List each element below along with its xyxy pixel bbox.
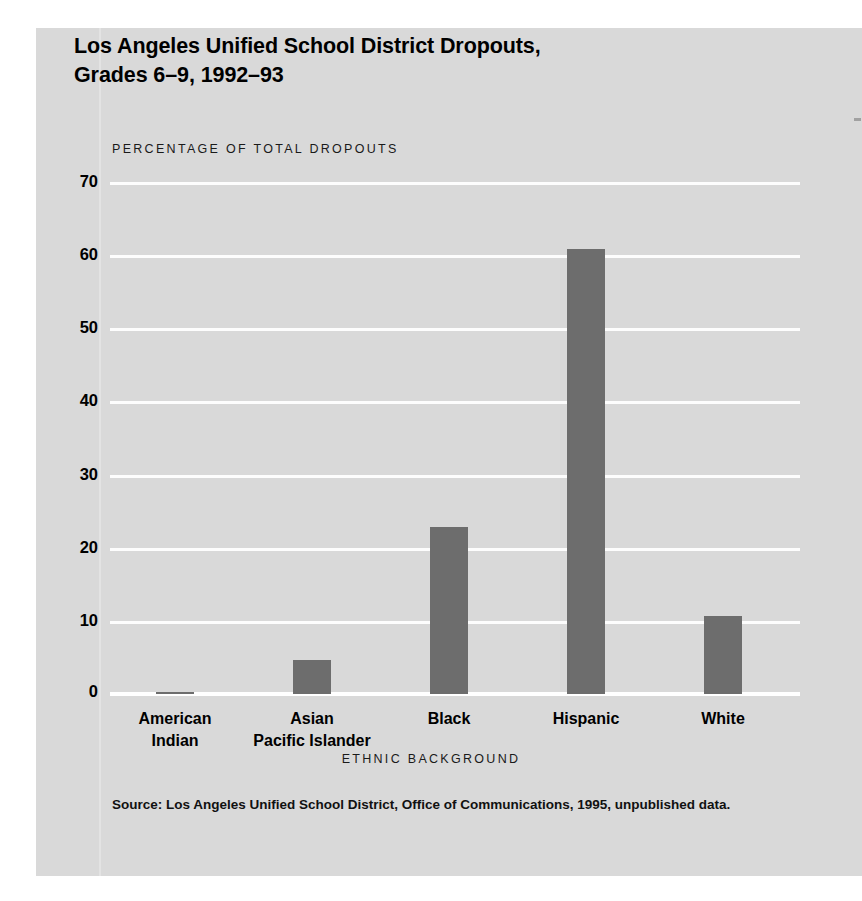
figure-container: Los Angeles Unified School District Drop…: [0, 0, 862, 901]
x-tick-label-american-indian: American Indian: [139, 694, 212, 752]
source-note: Source: Los Angeles Unified School Distr…: [112, 797, 730, 812]
x-tick-label-line-1: Asian: [290, 710, 334, 727]
x-tick-label-line-1: Black: [428, 710, 471, 727]
x-tick-label-line-1: Hispanic: [553, 710, 620, 727]
gridline-60: 60: [110, 255, 800, 258]
page-title: Los Angeles Unified School District Drop…: [74, 32, 774, 90]
x-tick-label-line-2: Pacific Islander: [253, 730, 370, 752]
gridline-50: 50: [110, 328, 800, 331]
gridline-30: 30: [110, 475, 800, 478]
y-axis-title: PERCENTAGE OF TOTAL DROPOUTS: [112, 142, 399, 156]
x-tick-label-black: Black: [428, 694, 471, 730]
x-axis-title: ETHNIC BACKGROUND: [0, 752, 862, 766]
x-tick-label-line-1: American: [139, 710, 212, 727]
x-tick-label-line-1: White: [701, 710, 745, 727]
page-title-line-1: Los Angeles Unified School District Drop…: [74, 32, 774, 61]
x-tick-label-line-2: Indian: [139, 730, 212, 752]
bar-asian-pacific-islander[interactable]: [293, 660, 331, 694]
y-tick-label-70: 70: [80, 172, 98, 191]
y-tick-label-50: 50: [80, 318, 98, 337]
bar-hispanic[interactable]: [567, 249, 605, 694]
x-tick-label-asian-pacific-islander: Asian Pacific Islander: [253, 694, 370, 752]
page-title-line-2: Grades 6–9, 1992–93: [74, 61, 774, 90]
y-tick-label-30: 30: [80, 465, 98, 484]
bar-black[interactable]: [430, 527, 468, 694]
y-tick-label-20: 20: [80, 538, 98, 557]
y-tick-label-60: 60: [80, 245, 98, 264]
x-tick-label-hispanic: Hispanic: [553, 694, 620, 730]
panel-tone-seam: [99, 28, 101, 876]
y-tick-label-10: 10: [80, 611, 98, 630]
bar-white[interactable]: [704, 616, 742, 694]
x-tick-label-white: White: [701, 694, 745, 730]
plot-area: 70 60 50 40 30 20 10 0 American: [110, 182, 800, 694]
gridline-40: 40: [110, 401, 800, 404]
gridline-70: 70: [110, 182, 800, 185]
y-tick-label-0: 0: [89, 682, 98, 701]
y-tick-label-40: 40: [80, 391, 98, 410]
scan-artifact-speck: [854, 118, 861, 121]
